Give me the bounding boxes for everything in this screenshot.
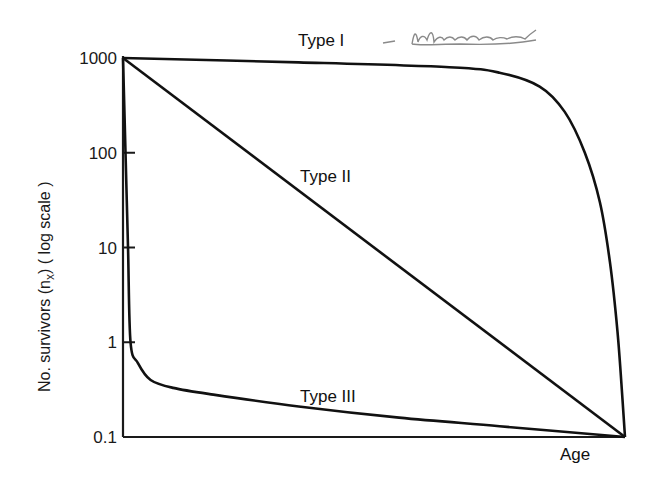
series-lines	[123, 58, 625, 437]
y-tick-label: 1000	[79, 49, 117, 68]
handwritten-dash	[383, 41, 395, 43]
survivorship-chart: 10001001010.1 Type I Type II Type III Ag…	[0, 0, 659, 489]
y-tick-label: 0.1	[93, 428, 117, 447]
y-tick-label: 100	[89, 144, 117, 163]
handwritten-annotation	[412, 30, 536, 45]
y-ticks: 10001001010.1	[79, 49, 135, 447]
labels: Type I Type II Type III Age No. survivor…	[36, 30, 590, 464]
y-axis-title-main: No. survivors (n	[36, 280, 53, 392]
x-axis-title: Age	[560, 445, 590, 464]
series-label-type-iii: Type III	[300, 387, 356, 406]
y-axis-title-suffix: ) ( log scale )	[36, 182, 53, 274]
y-axis-title: No. survivors (nx) ( log scale )	[36, 182, 57, 393]
series-line-type-ii	[123, 58, 625, 437]
y-tick-label: 1	[108, 333, 117, 352]
series-label-type-i: Type I	[298, 31, 344, 50]
series-label-type-ii: Type II	[300, 167, 351, 186]
y-tick-label: 10	[98, 239, 117, 258]
